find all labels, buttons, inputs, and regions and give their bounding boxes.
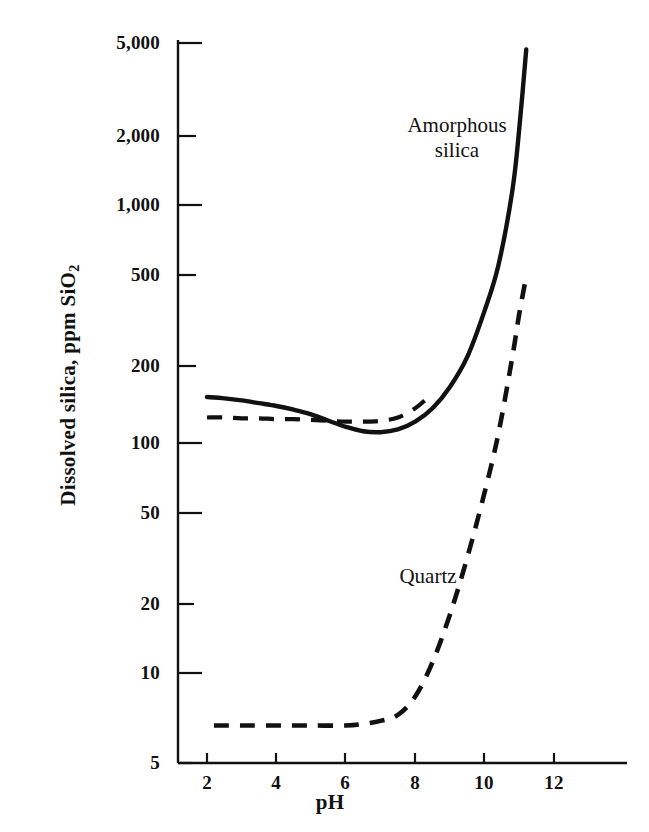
y-tick-label-5: 5	[50, 752, 160, 774]
series-annotation-quartz: Quartz	[399, 564, 456, 589]
y-tick-label-10: 10	[50, 662, 160, 684]
x-tick-label-10: 10	[474, 772, 493, 794]
y-axis-ticks	[178, 43, 202, 763]
y-axis-label-text: Dissolved silica, ppm SiO	[56, 272, 80, 506]
x-axis-ticks	[207, 753, 554, 763]
y-tick-label-2000: 2,000	[50, 125, 160, 147]
y-axis-label-subscript: 2	[66, 264, 82, 271]
series-annotation-amorphous-silica: Amorphous silica	[407, 113, 506, 163]
series-line-quartz	[214, 277, 526, 726]
y-axis-label: Dissolved silica, ppm SiO2	[56, 150, 90, 620]
chart-figure: 5,000 2,000 1,000 500 200 100 50 20 10 5…	[0, 0, 649, 832]
series-line-amorphous-silica	[207, 50, 526, 433]
x-axis-label: pH	[316, 790, 345, 815]
x-tick-label-4: 4	[271, 772, 281, 794]
x-tick-label-2: 2	[202, 772, 212, 794]
x-tick-label-8: 8	[410, 772, 420, 794]
y-tick-label-5000: 5,000	[50, 32, 160, 54]
x-tick-label-12: 12	[544, 772, 563, 794]
